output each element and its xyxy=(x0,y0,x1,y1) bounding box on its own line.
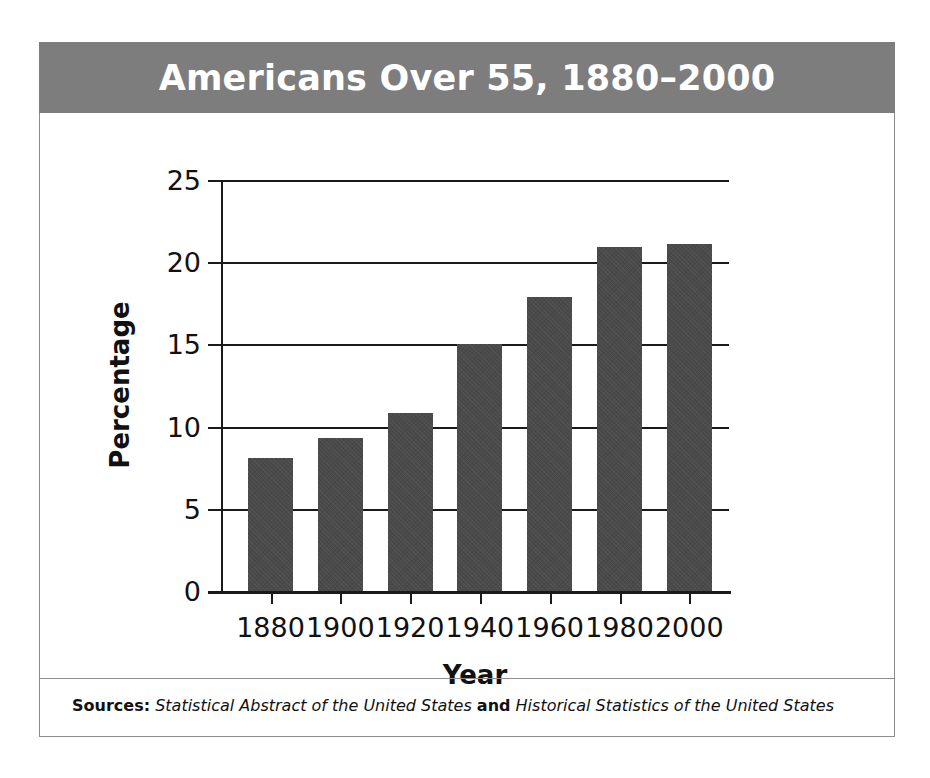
x-tick-label: 1880 xyxy=(236,612,305,643)
bar-1980 xyxy=(597,247,642,591)
y-tick-label: 20 xyxy=(167,247,201,278)
source-second: Historical Statistics of the United Stat… xyxy=(516,696,834,715)
bar-1900 xyxy=(318,438,363,591)
source-label: Sources: xyxy=(72,696,150,715)
source-note: Sources: Statistical Abstract of the Uni… xyxy=(72,696,834,715)
x-tick-label: 1980 xyxy=(585,612,654,643)
bar-1880 xyxy=(248,458,293,591)
chart-panel: Percentage 0510152025 188019001920194019… xyxy=(39,113,895,737)
y-tick-mark-25 xyxy=(208,180,221,182)
x-tick-mark-1900 xyxy=(340,591,342,604)
bar-1940 xyxy=(457,344,502,591)
source-divider xyxy=(40,678,894,679)
x-tick-mark-1920 xyxy=(410,591,412,604)
gridline-20 xyxy=(221,262,729,264)
x-tick-mark-1960 xyxy=(550,591,552,604)
y-axis-line xyxy=(221,180,223,591)
y-tick-mark-0 xyxy=(208,591,221,593)
x-tick-label: 1940 xyxy=(446,612,515,643)
y-axis-title: Percentage xyxy=(105,301,135,468)
x-tick-label: 2000 xyxy=(655,612,724,643)
y-tick-mark-10 xyxy=(208,427,221,429)
y-tick-label: 25 xyxy=(167,165,201,196)
gridline-0 xyxy=(221,591,729,593)
x-tick-mark-1980 xyxy=(620,591,622,604)
x-tick-mark-2000 xyxy=(689,591,691,604)
source-first: Statistical Abstract of the United State… xyxy=(155,696,472,715)
source-conjunction: and xyxy=(477,696,511,715)
y-tick-mark-5 xyxy=(208,509,221,511)
y-tick-mark-20 xyxy=(208,262,221,264)
x-tick-label: 1900 xyxy=(306,612,375,643)
x-tick-mark-1940 xyxy=(480,591,482,604)
gridline-25 xyxy=(221,180,729,182)
y-tick-label: 10 xyxy=(167,411,201,442)
y-tick-mark-15 xyxy=(208,344,221,346)
bar-1920 xyxy=(388,413,433,591)
y-tick-label: 0 xyxy=(184,576,201,607)
x-tick-label: 1960 xyxy=(515,612,584,643)
plot-area: 0510152025 1880190019201940196019802000 xyxy=(221,180,729,591)
x-tick-mark-1880 xyxy=(271,591,273,604)
bar-2000 xyxy=(667,244,712,591)
chart-figure: Americans Over 55, 1880–2000 Percentage … xyxy=(39,42,895,737)
bar-1960 xyxy=(527,297,572,591)
y-tick-label: 15 xyxy=(167,329,201,360)
page-title: Americans Over 55, 1880–2000 xyxy=(159,58,776,98)
y-tick-label: 5 xyxy=(184,493,201,524)
x-axis-title: Year xyxy=(221,660,729,690)
chart-title-banner: Americans Over 55, 1880–2000 xyxy=(39,42,895,113)
x-tick-label: 1920 xyxy=(376,612,445,643)
